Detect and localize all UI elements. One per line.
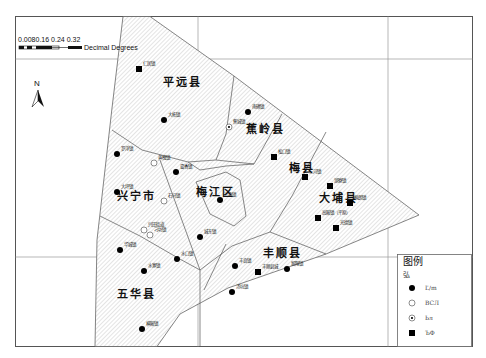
town-label: 黄槐镇 <box>158 154 171 161</box>
square-icon <box>315 215 321 221</box>
open-circle-icon <box>147 232 153 238</box>
square-icon <box>333 225 339 231</box>
town-label: 畲香镇 <box>180 163 193 170</box>
filled-circle-icon <box>141 268 147 274</box>
town-label: 城东镇 <box>204 228 217 235</box>
dot-circle-icon <box>226 124 232 130</box>
open-circle-icon <box>151 160 157 166</box>
town-label: 水口镇 <box>181 250 194 257</box>
town-label: 仁居镇 <box>143 60 156 67</box>
legend-item-label: Ьл <box>425 314 433 321</box>
legend-subtitle: 弘 <box>403 271 410 279</box>
town-label: 三河镇 <box>309 168 322 175</box>
square-icon <box>409 330 415 336</box>
square-icon <box>347 200 353 206</box>
town-label: 留隍镇 <box>291 260 304 267</box>
dot-circle-icon <box>409 315 415 321</box>
town-label: 三角镇 <box>224 191 237 198</box>
legend: 图例 弘 Ľ/mВСЛЬлЪФ <box>398 255 472 347</box>
filled-circle-icon <box>232 263 238 269</box>
legend-item-label: ЪФ <box>425 329 435 336</box>
open-circle-icon <box>409 300 415 306</box>
town-label: 水寨镇 <box>148 262 161 269</box>
filled-circle-icon <box>117 247 123 253</box>
filled-circle-icon <box>114 189 120 195</box>
filled-circle-icon <box>114 151 120 157</box>
north-label: N <box>34 79 40 88</box>
town-label: 丰良镇 <box>239 257 252 264</box>
town-label: 松口镇 <box>278 148 291 155</box>
filled-circle-icon <box>284 266 290 272</box>
town-label: 华城镇 <box>124 241 137 248</box>
square-icon <box>136 66 142 72</box>
filled-circle-icon <box>139 326 145 332</box>
county-label: 五华县 <box>117 287 156 301</box>
county-label: 兴宁市 <box>117 189 156 203</box>
filled-circle-icon <box>161 117 167 123</box>
filled-circle-icon <box>174 256 180 262</box>
filled-circle-icon <box>409 285 415 291</box>
filled-circle-icon <box>217 197 223 203</box>
filled-circle-icon <box>197 234 203 240</box>
open-circle-icon <box>161 198 167 204</box>
town-label: 刁坊镇 <box>154 226 167 233</box>
town-label: 罗浮镇 <box>121 145 134 152</box>
town-label: 枫朗镇 <box>354 194 367 201</box>
open-circle-icon <box>141 227 147 233</box>
town-label: 汤坑镇 <box>236 283 249 290</box>
town-label: 蕉城镇 <box>233 118 246 125</box>
town-label: 湖寮镇 <box>334 177 347 184</box>
filled-circle-icon <box>173 169 179 175</box>
town-label: 南礤镇 <box>252 103 265 110</box>
legend-item-label: Ľ/m <box>425 284 437 291</box>
town-label: 光德镇 <box>340 219 353 226</box>
filled-circle-icon <box>229 289 235 295</box>
town-label: 大坪镇 <box>121 183 134 190</box>
county-label: 蕉岭县 <box>245 122 285 136</box>
town-label: 石马镇 <box>168 192 181 199</box>
scale-bar-ticks: 0.0080.16 0.24 0.32 <box>18 36 80 43</box>
square-icon <box>302 174 308 180</box>
town-label: 丰顺县城 <box>262 263 279 270</box>
town-label: 横陂镇 <box>146 320 159 327</box>
county-label: 丰顺县 <box>263 246 302 260</box>
square-icon <box>255 269 261 275</box>
legend-title: 图例 <box>403 255 423 267</box>
filled-circle-icon <box>245 109 251 115</box>
county-label: 平远县 <box>163 76 202 89</box>
legend-item-label: ВСЛ <box>425 299 439 306</box>
map-canvas: 0.0080.16 0.24 0.32 Decimal Degrees N 平远… <box>0 0 486 358</box>
town-label: 大柘镇 <box>168 111 181 118</box>
town-label: 高陂镇（平原） <box>322 209 350 216</box>
scale-bar-units: Decimal Degrees <box>84 44 138 52</box>
square-icon <box>327 183 333 189</box>
square-icon <box>271 154 277 160</box>
